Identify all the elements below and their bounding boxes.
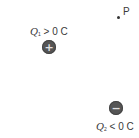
charge-2-symbol: Q bbox=[96, 120, 104, 132]
plus-icon: + bbox=[44, 42, 53, 53]
charge-1-subscript: 1 bbox=[38, 31, 41, 37]
charge-1-label: Q1 > 0 C bbox=[30, 26, 68, 39]
charge-2-negative: − bbox=[109, 101, 123, 115]
point-p-marker bbox=[117, 16, 120, 19]
charge-1-relation: > 0 C bbox=[44, 26, 68, 37]
charge-1-positive: + bbox=[42, 40, 56, 54]
minus-icon: − bbox=[111, 103, 120, 114]
charge-2-subscript: 2 bbox=[104, 126, 107, 132]
charge-1-symbol: Q bbox=[30, 25, 38, 37]
charge-2-label: Q2 < 0 C bbox=[96, 121, 134, 134]
charge-2-relation: < 0 C bbox=[110, 121, 134, 132]
point-p-label: P bbox=[123, 7, 130, 17]
